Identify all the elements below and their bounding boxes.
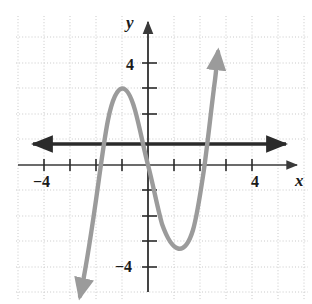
graph-figure: y x −4 4 4 −4 xyxy=(0,0,312,304)
y-tick-label-positive-four: 4 xyxy=(126,57,134,73)
y-tick-label-negative-four: −4 xyxy=(115,259,132,275)
y-axis-label: y xyxy=(126,14,134,31)
grid-lines xyxy=(16,16,308,300)
x-axis-label: x xyxy=(295,172,304,189)
coordinate-plane xyxy=(0,0,312,304)
x-tick-label-positive-four: 4 xyxy=(251,174,259,190)
x-tick-label-negative-four: −4 xyxy=(33,174,50,190)
